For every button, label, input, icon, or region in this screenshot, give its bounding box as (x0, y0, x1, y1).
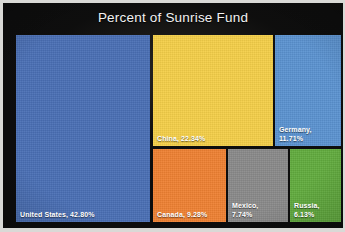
treemap-tile-label-united-states: United States, 42.80% (20, 210, 94, 219)
treemap-plot-area: United States, 42.80% China, 22.34% Germ… (16, 35, 341, 222)
treemap-tile-germany[interactable]: Germany, 11.71% (275, 35, 341, 146)
treemap-tile-label-china: China, 22.34% (157, 134, 205, 143)
chart-panel: Percent of Sunrise Fund United States, 4… (3, 3, 343, 228)
treemap-tile-china[interactable]: China, 22.34% (153, 35, 273, 146)
treemap-tile-label-germany: Germany, 11.71% (279, 125, 312, 143)
treemap-tile-united-states[interactable]: United States, 42.80% (16, 35, 150, 222)
treemap-tile-label-russia: Russia, 6.13% (294, 201, 320, 219)
chart-figure: Percent of Sunrise Fund United States, 4… (0, 0, 345, 232)
treemap-tile-mexico[interactable]: Mexico, 7.74% (228, 149, 288, 222)
chart-title: Percent of Sunrise Fund (3, 10, 343, 26)
treemap-tile-canada[interactable]: Canada, 9.28% (153, 149, 226, 222)
treemap-tile-russia[interactable]: Russia, 6.13% (290, 149, 341, 222)
treemap-tile-label-canada: Canada, 9.28% (157, 210, 207, 219)
treemap-tile-label-mexico: Mexico, 7.74% (232, 201, 258, 219)
